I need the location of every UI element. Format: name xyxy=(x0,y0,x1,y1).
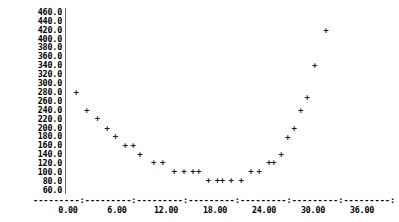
data-point-marker: + xyxy=(84,105,89,114)
data-point-marker: + xyxy=(73,88,78,97)
data-point-marker: + xyxy=(305,93,310,102)
x-axis-tick-label: 36.00 xyxy=(350,206,374,214)
data-point-marker: + xyxy=(131,140,136,149)
x-axis-line: ---------:---------:---------:---------:… xyxy=(33,196,395,205)
data-point-marker: + xyxy=(271,158,276,167)
data-point-marker: + xyxy=(229,176,234,185)
x-axis-tick-label: 30.00 xyxy=(301,206,325,214)
x-axis-tick-label: 6.00 xyxy=(107,206,126,214)
data-point-marker: + xyxy=(151,158,156,167)
data-point-marker: + xyxy=(285,132,290,141)
data-point-marker: + xyxy=(298,105,303,114)
x-axis-tick-label: 12.00 xyxy=(154,206,178,214)
data-point-marker: + xyxy=(312,61,317,70)
data-point-marker: + xyxy=(104,123,109,132)
data-point-marker: + xyxy=(196,167,201,176)
x-axis-tick-label: 0.00 xyxy=(58,206,77,214)
data-point-marker: + xyxy=(248,167,253,176)
data-point-marker: + xyxy=(278,149,283,158)
x-axis-tick-label: 24.00 xyxy=(252,206,276,214)
data-point-marker: + xyxy=(137,149,142,158)
data-point-marker: + xyxy=(323,25,328,34)
data-point-marker: + xyxy=(95,113,100,122)
plot-area: ++++++++++++++++++++++++++++++ xyxy=(0,0,399,200)
data-point-marker: + xyxy=(256,167,261,176)
data-point-marker: + xyxy=(220,176,225,185)
data-point-marker: + xyxy=(238,176,243,185)
data-point-marker: + xyxy=(122,140,127,149)
data-point-marker: + xyxy=(171,167,176,176)
data-point-marker: + xyxy=(291,123,296,132)
data-point-marker: + xyxy=(190,167,195,176)
scatter-plot-figure: 460.0440.0420.0400.0380.0360.0340.0320.0… xyxy=(0,0,399,222)
data-point-marker: + xyxy=(160,158,165,167)
x-axis-tick-labels: 0.006.0012.0018.0024.0030.0036.00 xyxy=(0,206,399,220)
data-point-marker: + xyxy=(181,167,186,176)
data-point-marker: + xyxy=(206,176,211,185)
x-axis-tick-label: 18.00 xyxy=(203,206,227,214)
data-point-marker: + xyxy=(113,131,118,140)
